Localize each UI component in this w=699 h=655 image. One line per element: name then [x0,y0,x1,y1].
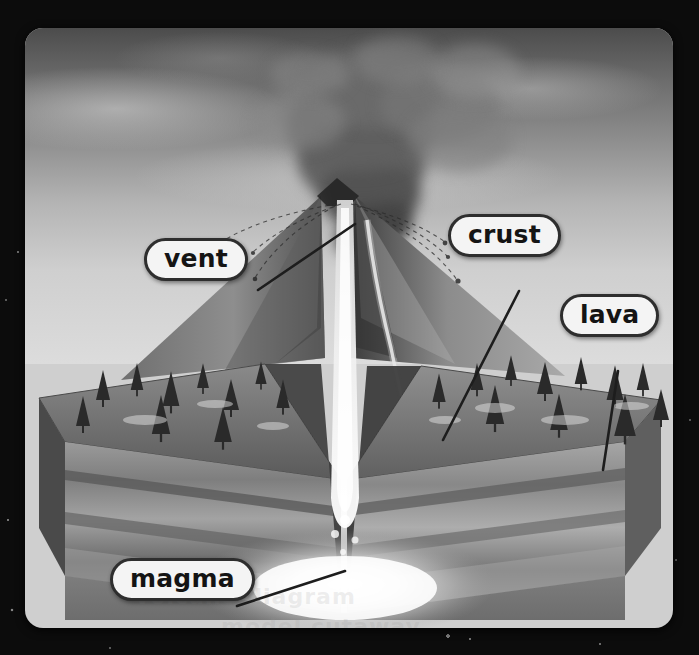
callout-label-vent[interactable]: vent [144,238,248,281]
callout-label-lava[interactable]: lava [560,294,659,337]
callout-text-vent: vent [164,246,228,271]
callout-text-crust: crust [468,222,541,247]
watermark-line-2: model cutaway [221,614,421,628]
callout-label-crust[interactable]: crust [448,214,561,257]
callout-label-magma[interactable]: magma [110,558,255,601]
callout-text-magma: magma [130,566,235,591]
screenshot-root: volcano diagram model cutaway vent crust… [0,0,699,655]
diagram-panel: volcano diagram model cutaway vent crust… [25,28,673,628]
callout-text-lava: lava [580,302,639,327]
